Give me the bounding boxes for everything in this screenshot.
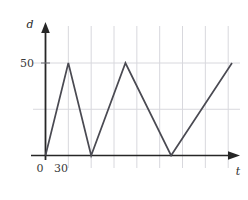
origin-label: 0 <box>37 162 44 175</box>
chart-figure: d t 50 0 30 <box>0 0 248 200</box>
x-tick-label-30: 30 <box>54 162 68 175</box>
x-axis-label: t <box>236 165 241 178</box>
zigzag-line-chart: d t 50 0 30 <box>0 0 248 200</box>
y-axis-label: d <box>26 18 33 31</box>
y-tick-label-50: 50 <box>20 57 34 70</box>
